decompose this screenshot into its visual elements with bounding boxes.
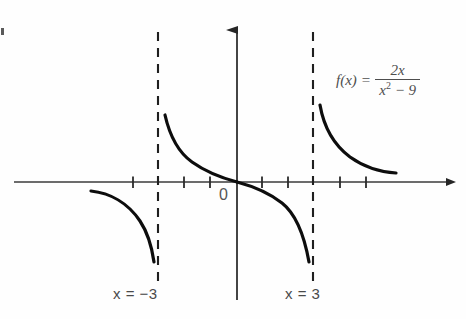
graph-canvas [0,0,466,319]
curve-right-branch [320,105,396,173]
scan-artifact [1,28,4,35]
asymptote-label-left: x = −3 [113,285,158,302]
formula-denominator: x2 − 9 [375,80,420,98]
curve-middle-lower [237,182,309,262]
formula-equals: = [360,72,372,89]
function-graph-figure: 0 x = −3 x = 3 f(x) = 2x x2 − 9 [0,0,466,319]
formula-denominator-base: x [379,82,386,98]
asymptote-label-right: x = 3 [285,285,320,302]
formula-fraction: 2x x2 − 9 [375,62,420,98]
curve-middle-upper [165,115,237,182]
function-formula: f(x) = 2x x2 − 9 [336,62,420,98]
formula-numerator: 2x [387,62,409,79]
origin-label: 0 [219,186,228,204]
formula-denominator-rest: − 9 [391,82,416,98]
formula-function-name: f(x) [336,72,357,89]
curve-left-branch [91,191,154,262]
